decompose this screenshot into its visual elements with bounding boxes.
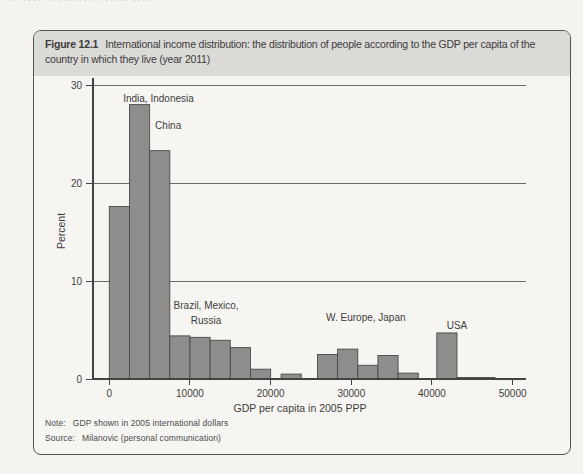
annotation-label: Brazil, Mexico,: [174, 300, 239, 311]
y-tick-label: 0: [76, 374, 82, 385]
x-axis-title: GDP per capita in 2005 PPP: [234, 402, 367, 414]
histogram-bar: [109, 207, 129, 379]
histogram-bar: [281, 374, 301, 379]
figure-label: Figure 12.1: [45, 38, 98, 50]
figure-source-line: Source:Milanovic (personal communication…: [45, 431, 228, 446]
histogram-bar: [437, 333, 457, 379]
figure-box: Figure 12.1International income distribu…: [33, 30, 571, 455]
x-tick-label: 0: [107, 388, 113, 399]
page-header-fragment: ·· ···· ·· ······ ·· ····· ····: [10, 0, 152, 4]
x-tick-label: 10000: [176, 388, 204, 399]
histogram-bar: [210, 340, 230, 379]
figure-note-line: Note:GDP shown in 2005 international dol…: [45, 416, 228, 431]
figure-title-line1: International income distribution: the d…: [105, 38, 535, 50]
histogram-bar: [230, 348, 250, 379]
note-text: GDP shown in 2005 international dollars: [73, 418, 228, 428]
annotation-label: Russia: [191, 315, 222, 326]
figure-title-line2: country in which they live (year 2011): [45, 53, 210, 65]
histogram-bar: [170, 336, 190, 379]
book-page: { "page": { "header_fragment": "·· ···· …: [0, 0, 583, 474]
y-tick-label: 10: [71, 276, 83, 287]
histogram-bar: [150, 151, 170, 379]
x-tick-label: 20000: [257, 388, 285, 399]
histogram-bar: [338, 349, 358, 379]
note-label: Note:: [45, 418, 66, 428]
annotation-label: USA: [447, 320, 468, 331]
histogram-bar: [190, 337, 210, 379]
y-axis-title: Percent: [55, 213, 67, 249]
y-tick-label: 30: [71, 80, 83, 91]
histogram-bar: [317, 355, 337, 380]
histogram-chart: 010203001000020000300004000050000GDP per…: [34, 76, 572, 416]
annotation-label: China: [155, 120, 182, 131]
figure-notes: Note:GDP shown in 2005 international dol…: [45, 416, 228, 445]
source-label: Source:: [45, 433, 75, 443]
histogram-bar: [250, 369, 270, 379]
x-tick-label: 30000: [337, 388, 365, 399]
histogram-bar: [358, 365, 378, 379]
y-tick-label: 20: [71, 178, 83, 189]
histogram-bar: [398, 373, 418, 379]
histogram-bar: [378, 355, 398, 379]
histogram-bar: [129, 105, 149, 379]
x-tick-label: 40000: [418, 388, 446, 399]
annotation-label: W. Europe, Japan: [326, 312, 406, 323]
annotation-label: India, Indonesia: [123, 93, 194, 104]
x-tick-label: 50000: [499, 388, 527, 399]
figure-title-band: Figure 12.1International income distribu…: [34, 31, 570, 76]
source-text: Milanovic (personal communication): [82, 433, 221, 443]
